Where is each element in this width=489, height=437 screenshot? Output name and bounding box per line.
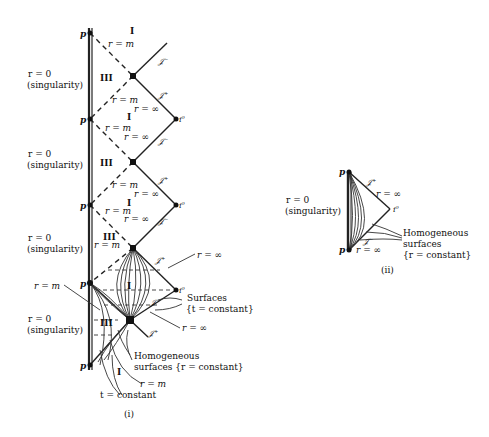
r-m-label: r = m: [108, 39, 134, 49]
point-p-label: p: [80, 115, 87, 125]
singularity-label-line1: r = 0: [28, 149, 52, 159]
t-constant-label: t = constant: [100, 390, 157, 400]
homogeneous-label-line1: Homogeneous: [134, 351, 200, 361]
i0-label: i⁰: [179, 286, 186, 295]
point-p-label: p: [80, 361, 87, 371]
scri-minus-label: 𝒥⁻: [157, 57, 168, 66]
point-p-label: p: [339, 167, 346, 177]
scri-minus-label: 𝒥⁻: [157, 217, 168, 226]
homogeneous-label-line1: Homogeneous: [403, 228, 469, 238]
region-I-label: I: [127, 281, 131, 291]
scri-plus-label: 𝒥⁺: [365, 178, 376, 187]
figure-ii-caption: (ii): [381, 265, 394, 275]
scri-plus-label: 𝒥⁺: [154, 256, 165, 265]
scri-minus-label: 𝒥⁻: [149, 298, 160, 307]
region-III-label: III: [100, 318, 113, 328]
scri-minus-label: 𝒥⁻: [157, 137, 168, 146]
singularity-label-line2: (singularity): [27, 244, 83, 254]
point-p-label: p: [80, 279, 87, 289]
r-m-label: r = m: [94, 240, 120, 250]
r-m-label: r = m: [140, 379, 166, 389]
singularity-label-line2: (singularity): [27, 80, 83, 90]
region-III-label: III: [100, 158, 113, 168]
r-inf-label: r = ∞: [134, 104, 159, 114]
singularity-label-line1: r = 0: [28, 314, 52, 324]
r-inf-label: r = ∞: [356, 245, 381, 255]
region-I-label: I: [127, 112, 131, 122]
singularity-label-line2: (singularity): [27, 160, 83, 170]
figure-i-labels: p p p p p I I I I I III III III III r = …: [27, 26, 254, 419]
singularity-label-line1: r = 0: [28, 69, 52, 79]
surfaces-t-label-line2: {t = constant}: [186, 304, 254, 314]
r-inf-label: r = ∞: [124, 132, 149, 142]
r-inf-label: r = ∞: [197, 250, 222, 260]
region-III-label: III: [100, 73, 113, 83]
r-inf-label: r = ∞: [134, 189, 159, 199]
point-p-label: p: [80, 29, 87, 39]
homogeneous-label-line2: surfaces: [403, 239, 442, 249]
singularity-label-line2: (singularity): [27, 325, 83, 335]
region-I-label: I: [117, 367, 121, 377]
point-p-label: p: [80, 201, 87, 211]
i0-label: i⁰: [179, 201, 186, 210]
homogeneous-label-line2: surfaces {r = constant}: [134, 362, 244, 372]
surfaces-t-label-line1: Surfaces: [187, 293, 227, 303]
i0-label: i⁰: [393, 205, 400, 214]
r-m-label: r = m: [34, 281, 60, 291]
region-I-label: I: [130, 26, 134, 36]
figure-i-caption: (i): [124, 409, 134, 419]
penrose-diagrams: p p p p p I I I I I III III III III r = …: [0, 0, 489, 437]
scri-plus-label: 𝒥⁺: [157, 91, 168, 100]
homogeneous-label-line3: {r = constant}: [403, 250, 471, 260]
singularity-label-line1: r = 0: [286, 195, 310, 205]
singularity-label-line1: r = 0: [28, 233, 52, 243]
point-p-label: p: [339, 245, 346, 255]
r-inf-label: r = ∞: [182, 323, 207, 333]
i0-label: i⁰: [179, 115, 186, 124]
r-inf-label: r = ∞: [124, 214, 149, 224]
scri-plus-label: 𝒥⁺: [147, 329, 158, 338]
r-inf-label: r = ∞: [376, 189, 401, 199]
scri-plus-label: 𝒥⁺: [157, 176, 168, 185]
singularity-label-line2: (singularity): [285, 206, 341, 216]
